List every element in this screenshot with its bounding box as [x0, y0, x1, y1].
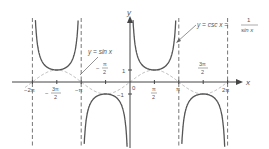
tick-label-twopi: 2π [222, 87, 229, 93]
tick-label-threehalfpi-den: 2 [201, 69, 204, 75]
sin-label: y = sin x [87, 48, 113, 56]
y-axis-arrow-icon [127, 16, 133, 23]
tick-label-neg3pi2-num: 3π [52, 86, 59, 92]
tick-label-zero: 0 [132, 85, 136, 91]
csc-label-denominator: sin x [241, 27, 254, 33]
x-axis-label: x [245, 78, 251, 87]
tick-label-halfpi-num: π [152, 86, 156, 92]
tick-label-neg3pi2-minus: − [45, 90, 49, 96]
x-axis-arrow-icon [236, 79, 243, 85]
csc-graph: x y −2π − 3π 2 −π − π 2 0 π 2 π 3π 2 2π … [0, 0, 269, 149]
tick-label-neg2pi: −2π [24, 87, 35, 93]
tick-label-threehalfpi-num: 3π [199, 61, 206, 67]
y-axis-label: y [126, 8, 132, 17]
tick-label-negone: −1 [117, 92, 125, 98]
csc-label: y = csc x = [196, 21, 228, 29]
tick-label-negpi: −π [75, 87, 83, 93]
tick-label-halfpi-den: 2 [152, 94, 155, 100]
tick-label-neghalfpi-den: 2 [103, 69, 106, 75]
tick-label-pi: π [176, 86, 180, 92]
csc-label-numerator: 1 [247, 17, 251, 23]
tick-label-neghalfpi-num: π [103, 61, 107, 67]
tick-label-neghalfpi-minus: − [96, 65, 100, 71]
tick-label-one: 1 [122, 68, 126, 74]
tick-label-neg3pi2-den: 2 [54, 94, 57, 100]
